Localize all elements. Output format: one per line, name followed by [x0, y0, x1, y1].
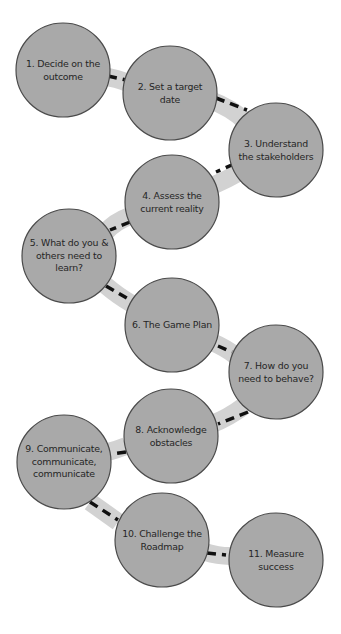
node-label-6: 6. The Game Plan	[127, 319, 217, 332]
node-label-2: 2. Set a target date	[125, 81, 215, 106]
node-label-3: 3. Understand the stakeholders	[231, 138, 321, 163]
node-label-10: 10. Challenge the Roadmap	[117, 528, 207, 553]
roadmap-diagram: 1. Decide on the outcome 2. Set a target…	[0, 0, 341, 634]
node-label-7: 7. How do you need to behave?	[231, 360, 321, 385]
node-label-5: 5. What do you & others need to learn?	[24, 237, 114, 275]
node-label-1: 1. Decide on the outcome	[18, 58, 108, 83]
node-label-11: 11. Measure success	[231, 548, 321, 573]
node-label-4: 4. Assess the current reality	[127, 190, 217, 215]
node-label-8: 8. Acknowledge obstacles	[126, 424, 216, 449]
node-label-9: 9. Communicate, communicate, communicate	[19, 443, 109, 481]
node-circles	[16, 23, 323, 607]
